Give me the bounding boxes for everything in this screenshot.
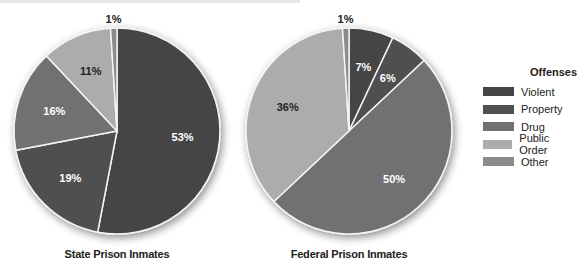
legend-item-property: Property: [483, 101, 577, 119]
slice-label-public-order: 36%: [277, 101, 299, 113]
slice-label-violent: 53%: [172, 131, 194, 143]
federal-chart-caption: Federal Prison Inmates: [249, 248, 449, 260]
legend-swatch: [483, 140, 512, 149]
legend-swatch: [483, 122, 514, 131]
legend: Offenses ViolentPropertyDrugPublic Order…: [483, 66, 577, 171]
slice-label-drug: 50%: [383, 173, 405, 185]
slice-label-drug: 16%: [43, 105, 65, 117]
federal-pie-chart: [246, 28, 452, 234]
legend-label: Property: [521, 103, 563, 115]
legend-label: Violent: [521, 86, 554, 98]
legend-swatch: [483, 105, 514, 114]
slice-label-violent: 7%: [355, 61, 371, 73]
slice-label-other: 1%: [338, 13, 354, 25]
legend-swatch: [483, 157, 514, 166]
slice-label-property: 19%: [59, 172, 81, 184]
legend-label: Drug: [521, 121, 545, 133]
slice-label-other: 1%: [106, 13, 122, 25]
legend-label: Public Order: [519, 132, 577, 156]
slice-label-public-order: 11%: [80, 65, 102, 77]
legend-item-violent: Violent: [483, 83, 577, 101]
legend-item-public-order: Public Order: [483, 136, 577, 154]
state-chart-caption: State Prison Inmates: [17, 248, 217, 260]
slice-label-property: 6%: [380, 72, 396, 84]
legend-title: Offenses: [530, 66, 577, 78]
legend-label: Other: [521, 156, 549, 168]
legend-swatch: [483, 87, 514, 96]
